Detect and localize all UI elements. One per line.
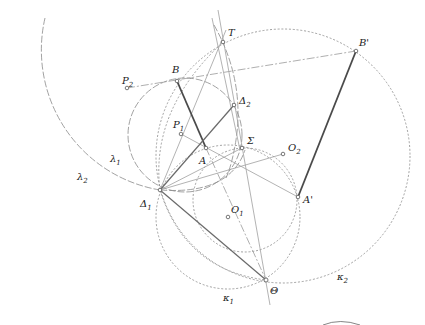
partial-arc-bottom — [323, 322, 360, 325]
point-O2 — [281, 152, 285, 156]
point-delta1 — [158, 188, 162, 192]
label-A: A — [198, 155, 206, 166]
label-delta1: Δ1 — [139, 198, 152, 212]
point-O1 — [226, 215, 230, 219]
label-P1: P1 — [172, 119, 184, 133]
label-sigma: Σ — [246, 135, 255, 146]
label-lambda1: λ1 — [109, 153, 121, 167]
label-O1: O1 — [231, 204, 244, 218]
label-lambda2: λ2 — [76, 171, 88, 185]
label-T: T — [228, 27, 236, 38]
label-B: B — [171, 64, 179, 75]
segment-Bprime-Aprime — [298, 51, 356, 197]
label-theta: Θ — [270, 285, 278, 296]
point-theta — [264, 278, 268, 282]
point-delta2 — [232, 103, 236, 107]
label-Aprime: A' — [302, 194, 313, 205]
point-T — [221, 40, 225, 44]
label-kappa1: κ1 — [222, 292, 234, 306]
label-kappa2: κ2 — [336, 271, 349, 285]
point-Aprime — [296, 195, 300, 199]
point-B — [175, 79, 179, 83]
label-delta2: Δ2 — [238, 95, 251, 109]
arc-lambda2 — [41, 18, 160, 190]
line-delta1-T — [160, 30, 226, 190]
line-delta1-O2 — [160, 154, 283, 190]
label-Bprime: B' — [358, 37, 369, 48]
point-sigma — [240, 146, 244, 150]
point-Bprime — [354, 49, 358, 53]
label-O2: O2 — [288, 142, 301, 156]
point-A — [204, 146, 208, 150]
line-P2-Bprime — [127, 51, 356, 88]
geometry-diagram: T B' B P2 Δ2 P1 A Σ O2 Δ1 A' O1 Θ λ1 λ2 … — [0, 0, 425, 325]
circle-lambda1 — [128, 78, 242, 192]
